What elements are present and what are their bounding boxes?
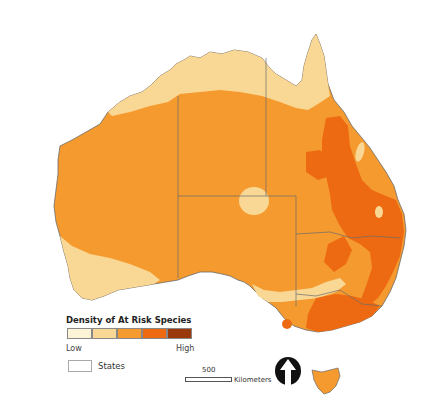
legend-high-label: High xyxy=(176,344,194,353)
scale-bar xyxy=(185,377,232,382)
legend-low-label: Low xyxy=(66,344,82,353)
tasmania xyxy=(312,368,340,394)
north-arrow-icon xyxy=(274,356,302,386)
scale-bar-unit: Kilometers xyxy=(234,376,271,384)
central-light-spot xyxy=(239,187,269,215)
qld-light-spot-2 xyxy=(375,206,383,218)
scale-bar-value: 500 xyxy=(202,366,215,374)
legend-swatches xyxy=(67,328,192,339)
legend-swatch-4 xyxy=(142,328,167,339)
vic-high-spot xyxy=(282,319,292,329)
legend-swatch-1 xyxy=(67,328,92,339)
legend-swatch-2 xyxy=(92,328,117,339)
legend-swatch-3 xyxy=(117,328,142,339)
states-legend-label: States xyxy=(98,361,125,371)
states-legend-swatch xyxy=(68,360,92,372)
legend-title: Density of At Risk Species xyxy=(66,315,191,325)
legend-swatch-5 xyxy=(167,328,192,339)
